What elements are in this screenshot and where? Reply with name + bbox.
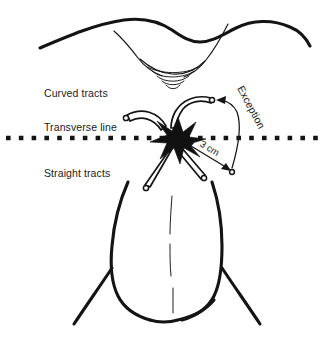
left-curved-tract-opening <box>123 115 128 120</box>
anatomical-diagram-svg: 3 cm Exception Curved tracts Transverse … <box>0 0 326 341</box>
right-straight-tract-opening <box>201 175 206 180</box>
right-curved-tract-opening <box>209 97 214 102</box>
exception-opening-dot <box>230 170 235 175</box>
straight-tracts-label: Straight tracts <box>44 167 110 179</box>
goodsall-rule-figure: 3 cm Exception Curved tracts Transverse … <box>0 0 326 341</box>
left-straight-tract-opening <box>143 185 148 190</box>
transverse-line-label: Transverse line <box>44 121 117 133</box>
curved-tracts-label: Curved tracts <box>44 87 108 99</box>
